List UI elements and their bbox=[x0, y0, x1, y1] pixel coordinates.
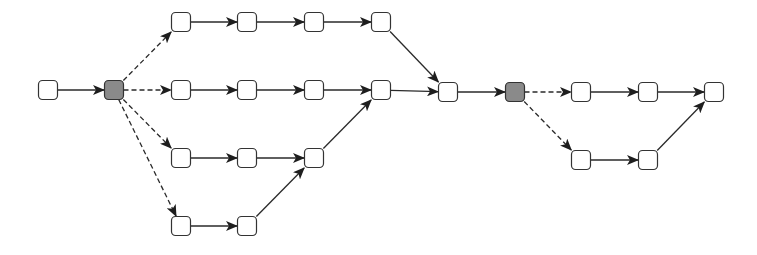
fork-node-fork2 bbox=[506, 83, 525, 102]
edges-layer bbox=[58, 22, 705, 226]
edge-r3c-to-r2d bbox=[323, 100, 371, 149]
node-r2d bbox=[372, 81, 391, 100]
nodes-layer bbox=[39, 13, 724, 236]
node-r2b bbox=[238, 81, 257, 100]
edge-r4b-to-r3c bbox=[256, 168, 304, 217]
edge-r1d-to-join bbox=[390, 32, 438, 83]
node-r3a bbox=[172, 149, 191, 168]
node-start bbox=[39, 81, 58, 100]
process-flow-diagram bbox=[0, 0, 757, 255]
node-join bbox=[439, 83, 458, 102]
node-r2a bbox=[172, 81, 191, 100]
dashed-edge-fork2-to-b1 bbox=[524, 102, 571, 151]
node-b2 bbox=[639, 151, 658, 170]
edge-r2d-to-join bbox=[391, 90, 439, 91]
node-r1c bbox=[305, 13, 324, 32]
node-r2c bbox=[305, 81, 324, 100]
fork-node-fork1 bbox=[105, 81, 124, 100]
node-r4b bbox=[238, 217, 257, 236]
node-r1b bbox=[238, 13, 257, 32]
dashed-edge-fork1-to-r1a bbox=[123, 32, 171, 81]
node-r4a bbox=[172, 217, 191, 236]
node-r1d bbox=[372, 13, 391, 32]
node-b1 bbox=[572, 151, 591, 170]
edge-b2-to-end bbox=[657, 102, 704, 151]
node-r3c bbox=[305, 149, 324, 168]
node-r1a bbox=[172, 13, 191, 32]
dashed-edge-fork1-to-r4a bbox=[119, 100, 176, 217]
node-t2 bbox=[639, 83, 658, 102]
node-end bbox=[705, 83, 724, 102]
node-r3b bbox=[238, 149, 257, 168]
node-t1 bbox=[572, 83, 591, 102]
